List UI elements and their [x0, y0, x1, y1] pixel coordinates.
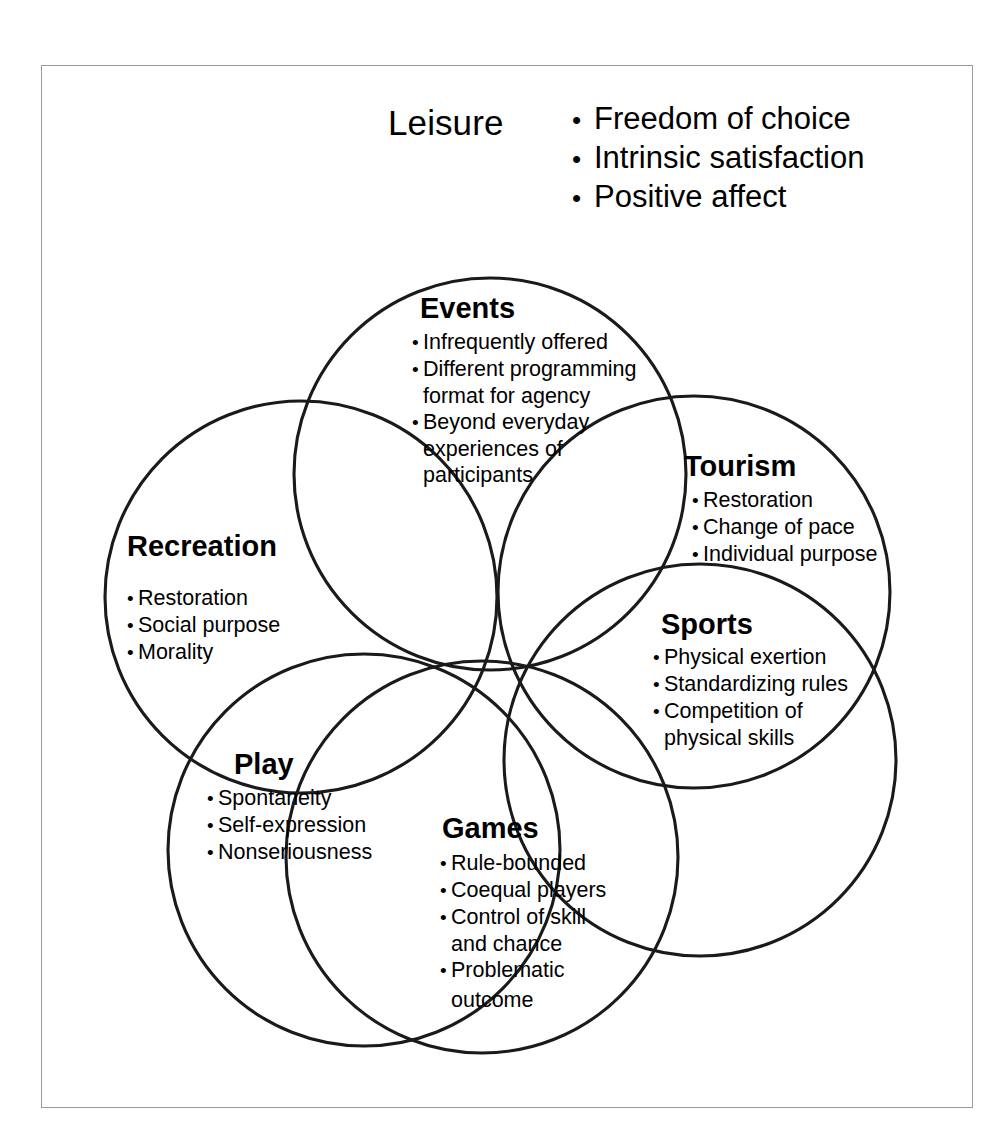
circle-events [294, 278, 686, 670]
circle-games [286, 661, 678, 1053]
circle-play [168, 654, 560, 1046]
circle-tourism [498, 396, 890, 788]
circle-recreation [105, 401, 497, 793]
venn-diagram-figure: Leisure •Freedom of choice •Intrinsic sa… [0, 0, 983, 1142]
venn-circles-layer [0, 0, 983, 1142]
circle-sports [504, 564, 896, 956]
